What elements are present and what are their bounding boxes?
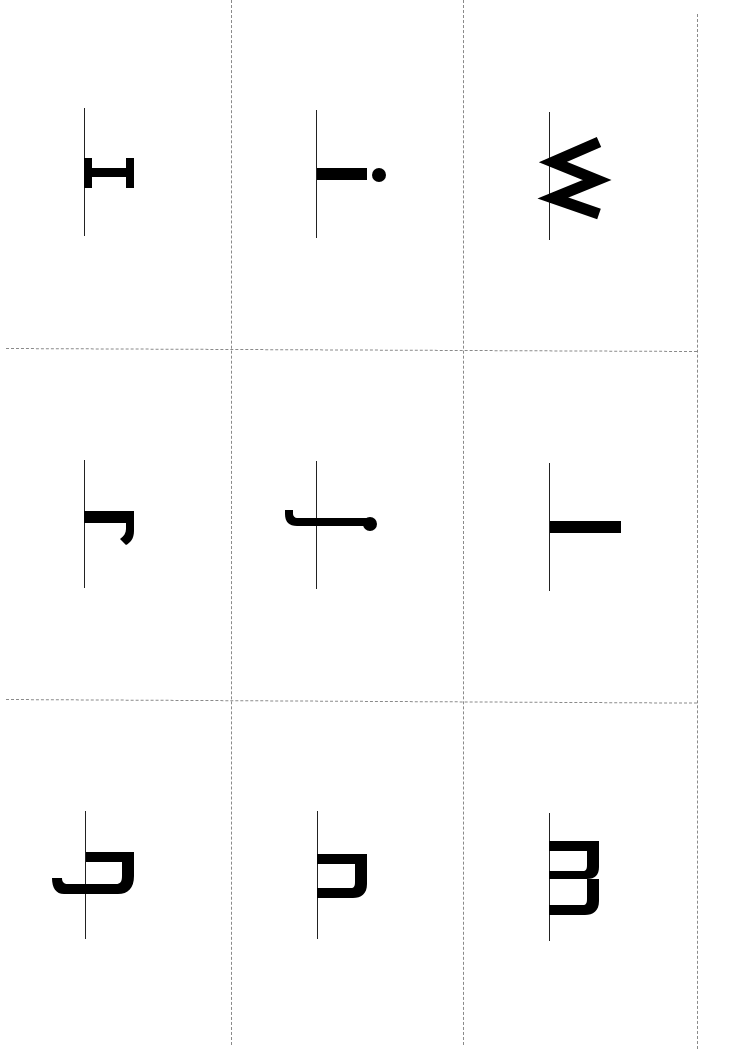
card-r3c2: n [231,699,463,1050]
card-r3c1: f [0,699,231,1050]
letter-glyph-serif-capital-i [84,158,136,190]
letter-glyph-lowercase-f [52,852,136,900]
card-r1c3: w [463,0,697,348]
card-r3c3: m [463,699,697,1050]
letter-glyph-lowercase-i [317,166,389,186]
card-r2c3: l [463,348,697,699]
cut-line-vertical-3 [697,14,698,1049]
letter-glyph-lowercase-n [317,854,369,900]
letter-glyph-lowercase-l [550,521,622,533]
card-r2c2: j [231,348,463,699]
letter-glyph-lowercase-j-dot [362,516,378,532]
card-r1c1: I [0,0,231,348]
letter-glyph-lowercase-w [549,138,601,218]
letter-glyph-lowercase-r [84,511,136,547]
letter-glyph-lowercase-m [549,841,603,917]
card-r1c2: i [231,0,463,348]
flashcard-sheet: I i w r j l [0,0,745,1050]
card-r2c1: r [0,348,231,699]
